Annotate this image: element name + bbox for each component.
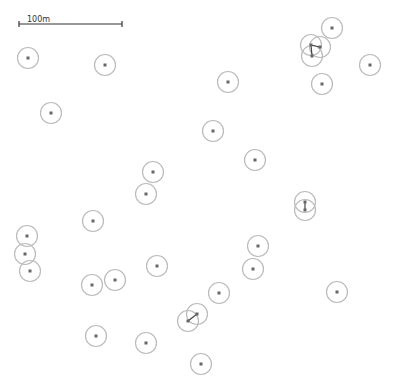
map-layer[interactable] [0, 0, 396, 389]
node-marker[interactable] [310, 44, 313, 47]
scale-bar-label: 100m [27, 15, 50, 24]
node-marker[interactable] [254, 159, 257, 162]
node-marker[interactable] [92, 220, 95, 223]
node-marker[interactable] [369, 64, 372, 67]
node-marker[interactable] [187, 320, 190, 323]
node-marker[interactable] [27, 57, 30, 60]
node-marker[interactable] [212, 130, 215, 133]
node-marker[interactable] [156, 265, 159, 268]
node-marker[interactable] [218, 292, 221, 295]
node-marker[interactable] [152, 171, 155, 174]
node-marker[interactable] [26, 235, 29, 238]
node-marker[interactable] [145, 342, 148, 345]
link-line [311, 45, 312, 56]
node-marker[interactable] [24, 253, 27, 256]
node-marker[interactable] [336, 291, 339, 294]
node-marker[interactable] [196, 313, 199, 316]
node-marker[interactable] [252, 268, 255, 271]
node-marker[interactable] [200, 363, 203, 366]
node-marker[interactable] [91, 284, 94, 287]
map-canvas[interactable]: 100m [0, 0, 396, 389]
node-marker[interactable] [304, 201, 307, 204]
node-marker[interactable] [321, 83, 324, 86]
node-marker[interactable] [227, 81, 230, 84]
node-marker[interactable] [104, 64, 107, 67]
node-marker[interactable] [304, 209, 307, 212]
node-marker[interactable] [145, 193, 148, 196]
node-marker[interactable] [95, 335, 98, 338]
node-marker[interactable] [50, 112, 53, 115]
node-marker[interactable] [114, 279, 117, 282]
node-marker[interactable] [319, 46, 322, 49]
node-marker[interactable] [331, 27, 334, 30]
node-marker[interactable] [257, 245, 260, 248]
node-marker[interactable] [29, 270, 32, 273]
node-marker[interactable] [311, 55, 314, 58]
